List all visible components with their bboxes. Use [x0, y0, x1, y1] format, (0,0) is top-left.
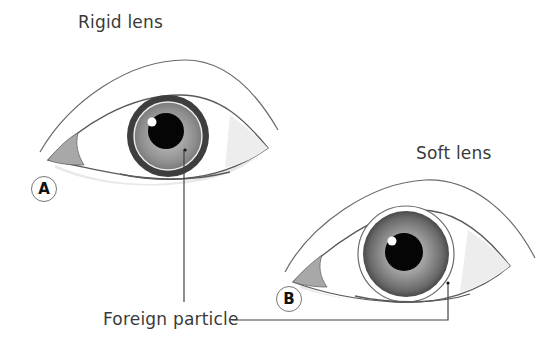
- eye-a: [40, 60, 278, 186]
- highlight-b: [388, 237, 397, 246]
- badge-b: B: [276, 286, 302, 312]
- title-soft-lens: Soft lens: [416, 143, 492, 163]
- title-rigid-lens: Rigid lens: [78, 12, 163, 32]
- highlight-a: [148, 118, 157, 127]
- badge-a: A: [31, 176, 57, 202]
- eye-b: [285, 180, 535, 303]
- foreign-particle-label: Foreign particle: [103, 309, 239, 329]
